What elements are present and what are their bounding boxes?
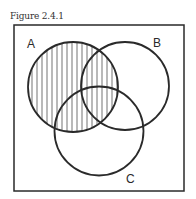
set-c-label: C <box>126 172 135 186</box>
set-a-label: A <box>27 37 35 51</box>
venn-diagram: A B C <box>0 0 196 199</box>
set-b-label: B <box>153 36 161 50</box>
